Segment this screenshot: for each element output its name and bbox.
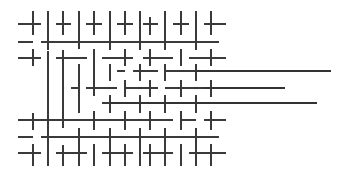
lattice-figure: [0, 0, 346, 174]
lattice-canvas: [0, 0, 346, 174]
